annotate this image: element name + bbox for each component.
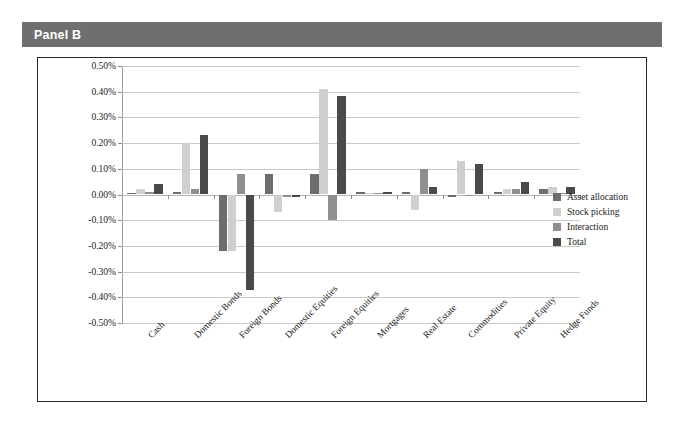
panel-title: Panel B — [34, 28, 81, 42]
bar-asset-allocation — [173, 192, 182, 195]
gridline — [122, 143, 580, 144]
gridline — [122, 66, 580, 67]
gridline — [122, 92, 580, 93]
bar-total — [200, 135, 209, 194]
x-axis-tick-mark — [488, 195, 489, 199]
bar-stock-picking — [182, 143, 191, 194]
legend-item[interactable]: Interaction — [553, 220, 663, 233]
bar-total — [383, 192, 392, 195]
y-axis-tick-mark — [118, 195, 122, 196]
bar-asset-allocation — [539, 189, 548, 194]
y-axis-tick-mark — [118, 92, 122, 93]
legend-swatch-icon — [553, 238, 561, 246]
y-axis-tick-mark — [118, 246, 122, 247]
legend-item-label: Asset allocation — [567, 192, 628, 202]
bar-interaction — [283, 195, 292, 198]
gridline — [122, 169, 580, 170]
bar-asset-allocation — [127, 193, 136, 194]
gridline — [122, 297, 580, 298]
legend-item[interactable]: Asset allocation — [553, 190, 663, 203]
bar-interaction — [512, 189, 521, 194]
y-axis-tick-label: -0.10% — [38, 215, 116, 225]
bar-total — [154, 184, 163, 194]
bar-asset-allocation — [356, 192, 365, 195]
y-axis-tick-mark — [118, 220, 122, 221]
panel-header: Panel B — [22, 22, 662, 47]
gridline — [122, 272, 580, 273]
y-axis-tick-mark — [118, 66, 122, 67]
legend-item-label: Stock picking — [567, 207, 620, 217]
bar-stock-picking — [319, 89, 328, 194]
y-axis-tick-mark — [118, 297, 122, 298]
bar-total — [246, 195, 255, 290]
y-axis-tick-mark — [118, 272, 122, 273]
y-axis-tick-label: 0.20% — [38, 138, 116, 148]
bar-total — [429, 187, 438, 195]
bar-stock-picking — [365, 193, 374, 194]
gridline — [122, 246, 580, 247]
bar-stock-picking — [274, 195, 283, 213]
y-axis-tick-label: 0.50% — [38, 61, 116, 71]
y-axis-tick-mark — [118, 143, 122, 144]
bar-stock-picking — [228, 195, 237, 252]
legend-swatch-icon — [553, 208, 561, 216]
y-axis-tick-mark — [118, 117, 122, 118]
bar-asset-allocation — [494, 192, 503, 195]
bar-asset-allocation — [265, 174, 274, 195]
gridline — [122, 220, 580, 221]
x-axis-tick-mark — [534, 195, 535, 199]
bar-stock-picking — [136, 189, 145, 194]
x-axis-tick-mark — [214, 195, 215, 199]
y-axis-tick-label: -0.50% — [38, 318, 116, 328]
y-axis-tick-label: -0.30% — [38, 267, 116, 277]
bar-total — [521, 182, 530, 195]
bar-interaction — [328, 195, 337, 221]
bar-stock-picking — [411, 195, 420, 210]
legend-swatch-icon — [553, 193, 561, 201]
x-axis-tick-mark — [443, 195, 444, 199]
bar-asset-allocation — [402, 192, 411, 195]
y-axis-tick-mark — [118, 169, 122, 170]
legend-item-label: Total — [567, 237, 586, 247]
x-axis-tick-mark — [305, 195, 306, 199]
bar-asset-allocation — [310, 174, 319, 195]
chart-legend: Asset allocationStock pickingInteraction… — [553, 190, 663, 250]
x-axis-tick-mark — [168, 195, 169, 199]
gridline — [122, 117, 580, 118]
bar-stock-picking — [457, 161, 466, 194]
y-axis-tick-label: -0.20% — [38, 241, 116, 251]
legend-item-label: Interaction — [567, 222, 608, 232]
y-axis-tick-label: 0.40% — [38, 87, 116, 97]
y-axis-tick-label: 0.00% — [38, 190, 116, 200]
bar-interaction — [191, 189, 200, 194]
bar-asset-allocation — [448, 195, 457, 198]
bar-total — [475, 164, 484, 195]
bar-total — [337, 96, 346, 195]
y-axis-tick-label: 0.30% — [38, 112, 116, 122]
legend-item[interactable]: Stock picking — [553, 205, 663, 218]
legend-item[interactable]: Total — [553, 235, 663, 248]
y-axis-tick-label: -0.40% — [38, 292, 116, 302]
legend-swatch-icon — [553, 223, 561, 231]
bar-stock-picking — [503, 189, 512, 194]
bar-interaction — [374, 193, 383, 194]
bar-interaction — [237, 174, 246, 195]
bar-interaction — [420, 169, 429, 195]
bar-interaction — [145, 192, 154, 195]
x-axis-tick-mark — [259, 195, 260, 199]
y-axis-tick-mark — [118, 323, 122, 324]
y-axis-tick-label: 0.10% — [38, 164, 116, 174]
x-axis-tick-mark — [351, 195, 352, 199]
bar-interaction — [466, 195, 475, 196]
bar-asset-allocation — [219, 195, 228, 252]
x-axis-tick-mark — [397, 195, 398, 199]
bar-total — [292, 195, 301, 198]
